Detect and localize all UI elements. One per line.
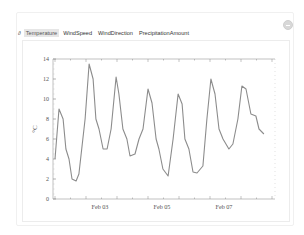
tab-winddirection[interactable]: WindDirection — [96, 29, 135, 37]
x-tick-label: Feb 05 — [153, 203, 170, 210]
chart-frame: 02468101214Feb 03Feb 05Feb 07°C — [22, 40, 290, 222]
partial-icon: ∂ — [18, 30, 21, 36]
y-tick-label: 14 — [43, 56, 49, 62]
minus-circle-icon[interactable] — [283, 20, 293, 30]
y-tick-label: 4 — [46, 156, 49, 162]
y-tick-label: 6 — [46, 136, 49, 142]
y-tick-label: 10 — [43, 96, 49, 102]
y-tick-label: 8 — [46, 116, 49, 122]
tab-windspeed[interactable]: WindSpeed — [61, 29, 94, 37]
x-tick-label: Feb 03 — [91, 203, 108, 210]
x-tick-label: Feb 07 — [215, 203, 232, 210]
temperature-line-chart: 02468101214Feb 03Feb 05Feb 07°C — [23, 41, 289, 221]
tab-temperature[interactable]: Temperature — [24, 29, 59, 37]
y-tick-label: 12 — [43, 76, 49, 82]
temperature-series-line — [55, 64, 264, 181]
y-tick-label: 0 — [46, 196, 49, 202]
y-tick-label: 2 — [46, 176, 49, 182]
tab-precipitationamount[interactable]: PrecipitationAmount — [137, 29, 191, 37]
variable-tabs: ∂ Temperature WindSpeed WindDirection Pr… — [18, 28, 193, 38]
y-axis-label: °C — [31, 125, 39, 133]
